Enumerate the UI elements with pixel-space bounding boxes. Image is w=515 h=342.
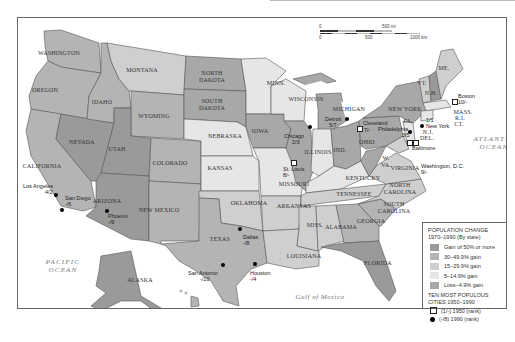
label-virginia: VIRGINIA [391, 165, 420, 172]
ocean-line: ATLANTIC [473, 135, 507, 143]
city-rank: 5/7 [325, 122, 337, 128]
city-marker-los-angeles [54, 193, 58, 197]
label-florida: FLORIDA [364, 260, 391, 267]
legend-label: (-/8) 1990 (rank) [439, 316, 479, 322]
legend-item: Gain of 50% or more [430, 243, 506, 251]
legend-cities-title: TEN MOST POPULOUS CITIES 1950–1990 [428, 292, 506, 305]
state-maine [436, 49, 463, 99]
legend-label: 15–29.9% gain [444, 263, 481, 269]
label-kansas: KANSAS [207, 165, 232, 172]
legend-symbol-1950: (1/-) 1950 (rank) [430, 307, 506, 314]
legend-item: Loss–4.9% gain [430, 281, 506, 289]
label-alabama: ALABAMA [325, 224, 357, 231]
label-west-virginia: W. VA. [378, 155, 394, 168]
label-arizona: ARIZONA [93, 198, 121, 205]
city-rank: -/8 [243, 240, 249, 246]
scale-mi-max: 500 mi [382, 24, 396, 29]
label-wyoming: WYOMING [138, 113, 170, 120]
legend-symbol-1990: (-/8) 1990 (rank) [430, 316, 506, 322]
label-oklahoma: OKLAHOMA [231, 200, 268, 207]
city-detroit: Detroit5/7 [325, 116, 341, 128]
city-marker-cleveland [357, 126, 363, 132]
city-rank: 4/2 [23, 189, 53, 195]
scale-bar: 0 500 mi 0 500 1000 km [318, 24, 428, 44]
city-baltimore: Baltimore [412, 145, 435, 151]
ocean-line: PACIFIC [46, 258, 80, 266]
label-nevada: NEVADA [69, 139, 95, 146]
label-nebraska: NEBRASKA [208, 133, 242, 140]
label-new-mexico: NEW MEXICO [139, 207, 180, 214]
hawaii-island [185, 292, 188, 295]
label-georgia: GEORGIA [357, 218, 385, 225]
label-idaho: IDAHO [92, 99, 112, 106]
scale-km-max: 1000 km [410, 35, 427, 40]
legend-item: 30–49.9% gain [430, 253, 506, 261]
city-houston: Houston-/4 [250, 270, 271, 282]
label-colorado: COLORADO [153, 160, 188, 167]
city-rank: 2/3 [284, 139, 300, 145]
scale-km-bar [320, 33, 420, 35]
label-tennessee: TENNESSEE [336, 191, 371, 198]
city-rank: 10/- [458, 99, 467, 105]
label-arkansas: ARKANSAS [277, 203, 311, 210]
legend-swatch [430, 272, 439, 279]
label-atlantic-ocean: ATLANTICOCEAN [473, 135, 507, 151]
label-illinois: ILLINOIS [305, 149, 332, 156]
legend-label: Loss–4.9% gain [444, 282, 483, 288]
city-name: Washington, D.C. [421, 163, 464, 169]
city-marker-dallas [238, 227, 242, 231]
label-texas: TEXAS [210, 236, 230, 243]
label-mississippi: MISS. [307, 222, 324, 229]
city-rank: -/4 [250, 276, 256, 282]
legend-title-line: 1970–1990 (By state) [428, 234, 481, 240]
label-california: CALIFORNIA [23, 163, 61, 170]
label-wisconsin: WISCONSIN [288, 96, 323, 103]
city-marker-detroit [345, 117, 349, 121]
label-indiana: IND. [334, 147, 347, 154]
label-south-dakota: SOUTH DAKOTA [194, 98, 230, 111]
state-kansas [201, 156, 259, 191]
label-kentucky: KENTUCKY [346, 175, 381, 182]
city-rank: 8/- [283, 172, 289, 178]
legend-title-line: TEN MOST POPULOUS [428, 292, 488, 298]
label-connecticut: CT. [454, 121, 463, 128]
scale-km-zero: 0 [319, 35, 322, 40]
legend-title-line: CITIES 1950–1990 [428, 299, 475, 305]
legend: POPULATION CHANGE 1970–1990 (By state) G… [422, 222, 507, 309]
label-michigan: MICHIGAN [333, 106, 365, 113]
legend-title: POPULATION CHANGE 1970–1990 (By state) [428, 227, 506, 240]
state-florida [321, 241, 396, 301]
legend-item: 15–29.9% gain [430, 262, 506, 270]
city-rank: -/9 [108, 219, 114, 225]
square-icon [430, 307, 437, 314]
city-marker-new-york [420, 124, 424, 128]
legend-swatch [430, 244, 439, 251]
city-rank: 3/5 [378, 132, 410, 138]
city-marker-houston [253, 262, 257, 266]
city-san-diego: San Diego-/6 [65, 195, 91, 207]
label-montana: MONTANA [126, 67, 158, 74]
city-name: New York [426, 123, 449, 129]
scale-km-mid: 500 [365, 35, 373, 40]
city-rank: -/10 [188, 276, 209, 282]
scale-mi-bar [320, 30, 392, 32]
label-iowa: IOWA [252, 128, 268, 135]
label-alaska: ALASKA [127, 277, 153, 284]
label-maine: ME. [438, 65, 449, 72]
city-los-angeles: Los Angeles4/2 [23, 183, 53, 195]
hawaii-island [180, 290, 183, 293]
state-mississippi [297, 206, 318, 251]
city-rank: 9/- [421, 169, 427, 175]
label-vermont: VT. [417, 80, 427, 87]
city-marker-san-diego [60, 208, 64, 212]
city-chicago: Chicago2/3 [284, 133, 304, 145]
legend-item: 5–14.9% gain [430, 272, 506, 280]
city-marker-chicago [308, 125, 312, 129]
label-gulf-of-mexico: Gulf of Mexico [296, 293, 345, 301]
ocean-line: OCEAN [49, 266, 78, 274]
label-delaware: DEL. [420, 135, 434, 142]
ocean-line: OCEAN [480, 143, 507, 151]
label-minnesota: MINN. [267, 80, 286, 87]
city-philadelphia: Philadelphia3/5 [378, 126, 410, 138]
city-cleveland-rank: 7/- [364, 127, 370, 133]
